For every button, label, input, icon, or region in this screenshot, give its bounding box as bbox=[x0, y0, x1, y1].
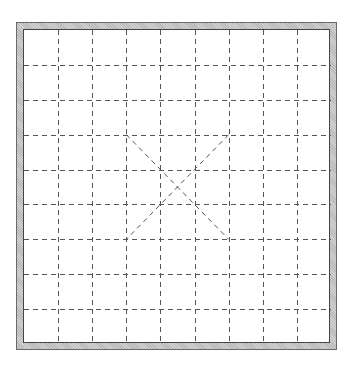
dashed-grid bbox=[24, 30, 331, 344]
board-frame bbox=[16, 22, 337, 350]
board-grid-area bbox=[23, 29, 330, 343]
